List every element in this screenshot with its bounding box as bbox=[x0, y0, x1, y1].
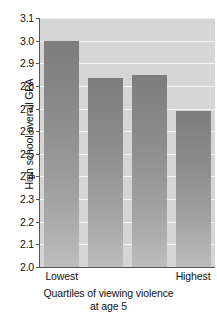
y-axis-tick-label: 2.5 bbox=[0, 149, 34, 159]
y-axis-tick-label: 2.6 bbox=[0, 126, 34, 136]
bar bbox=[44, 41, 79, 267]
y-axis-tick-label: 2.1 bbox=[0, 239, 34, 249]
x-axis-tick-label: Highest bbox=[176, 270, 211, 283]
gridline bbox=[40, 18, 215, 19]
y-axis-tick-mark bbox=[36, 18, 40, 19]
bar bbox=[88, 78, 123, 267]
y-axis-tick-mark bbox=[36, 63, 40, 64]
y-axis-tick-mark bbox=[36, 199, 40, 200]
x-axis-tick-label: Lowest bbox=[45, 270, 78, 283]
x-axis-tick-labels: LowestHighest bbox=[40, 270, 215, 286]
bar bbox=[176, 111, 211, 267]
y-axis-tick-label: 2.2 bbox=[0, 217, 34, 227]
y-axis-tick-label: 2.3 bbox=[0, 194, 34, 204]
y-axis-tick-label: 3.0 bbox=[0, 36, 34, 46]
y-axis-tick-mark bbox=[36, 131, 40, 132]
y-axis-tick-labels: 2.02.12.22.32.42.52.62.72.82.93.03.1 bbox=[0, 18, 34, 267]
y-axis-tick-mark bbox=[36, 244, 40, 245]
y-axis-tick-mark bbox=[36, 154, 40, 155]
y-axis-tick-label: 2.0 bbox=[0, 262, 34, 272]
x-axis-title: Quartiles of viewing violence at age 5 bbox=[0, 287, 217, 313]
x-axis-title-line-1: Quartiles of viewing violence bbox=[0, 287, 217, 300]
y-axis-tick-mark bbox=[36, 86, 40, 87]
x-axis-title-line-2: at age 5 bbox=[0, 300, 217, 313]
y-axis-tick-mark bbox=[36, 267, 40, 268]
y-axis-tick-label: 2.4 bbox=[0, 171, 34, 181]
plot-area bbox=[40, 18, 215, 267]
bar-chart-figure: High school overall GPA 2.02.12.22.32.42… bbox=[0, 0, 217, 322]
y-axis-tick-mark bbox=[36, 222, 40, 223]
bar bbox=[132, 75, 167, 267]
y-axis-tick-label: 3.1 bbox=[0, 13, 34, 23]
y-axis-tick-mark bbox=[36, 41, 40, 42]
y-axis-tick-mark bbox=[36, 109, 40, 110]
y-axis-tick-mark bbox=[36, 176, 40, 177]
y-axis-tick-label: 2.8 bbox=[0, 81, 34, 91]
x-axis-spine bbox=[39, 267, 215, 268]
y-axis-tick-label: 2.7 bbox=[0, 104, 34, 114]
y-axis-tick-label: 2.9 bbox=[0, 58, 34, 68]
